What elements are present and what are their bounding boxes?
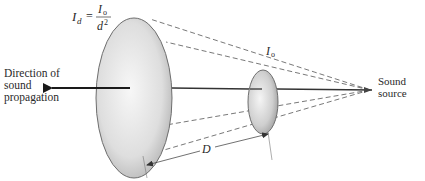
intensity-formula: I d = I o d 2: [71, 2, 111, 33]
source-point-icon: [364, 87, 372, 93]
sound-propagation-diagram: I d = I o d 2 Direction of sound propaga…: [0, 0, 425, 181]
svg-text:sound: sound: [4, 79, 32, 91]
distance-label: D: [201, 142, 211, 156]
svg-text:Sound: Sound: [378, 75, 407, 87]
svg-text:Direction of: Direction of: [4, 67, 60, 79]
sound-source-label: Sound source: [378, 75, 407, 99]
far-wavefront-ellipse: [96, 18, 172, 178]
svg-text:propagation: propagation: [4, 91, 59, 104]
formula-lhs-sub: d: [77, 16, 82, 26]
formula-equals: =: [86, 9, 93, 23]
svg-text:o: o: [271, 50, 275, 59]
near-wavefront-ellipse: [248, 70, 278, 134]
svg-text:source: source: [378, 87, 407, 99]
formula-denominator: d: [97, 19, 104, 33]
propagation-line-source: [277, 89, 372, 90]
near-intensity-label: I o: [265, 44, 275, 59]
propagation-line-right: [172, 88, 250, 89]
formula-numerator-sub: o: [103, 8, 107, 17]
direction-label: Direction of sound propagation: [4, 67, 60, 104]
formula-denominator-sup: 2: [104, 18, 108, 27]
